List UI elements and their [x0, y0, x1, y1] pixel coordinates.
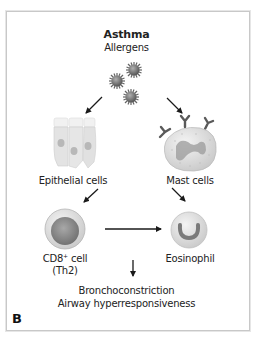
- epithelial-cells-icon: [54, 118, 96, 168]
- cd8-cell-label: CD8+ cell: [25, 253, 105, 265]
- cd8-cell-icon: [45, 209, 85, 249]
- mast-cells-label: Mast cells: [150, 175, 230, 187]
- arrow-mast-to-eosinophil: [172, 188, 185, 201]
- panel-letter: B: [12, 311, 22, 326]
- diagram-title: Asthma: [0, 29, 253, 41]
- arrow-allergens-to-epithelial: [86, 97, 102, 113]
- epithelial-cells-label: Epithelial cells: [33, 175, 113, 187]
- eosinophil-label: Eosinophil: [150, 253, 230, 265]
- outcome-line-2: Airway hyperresponsiveness: [0, 298, 253, 310]
- allergens-icon: [109, 62, 142, 105]
- cd8-cell-sublabel: (Th2): [25, 265, 105, 277]
- mast-cell-icon: [160, 116, 216, 171]
- eosinophil-icon: [171, 212, 207, 248]
- arrow-allergens-to-mast: [167, 98, 182, 113]
- arrow-epithelial-to-cd8: [84, 189, 98, 202]
- outcome-line-1: Bronchoconstriction: [0, 285, 253, 297]
- allergens-label: Allergens: [0, 42, 253, 54]
